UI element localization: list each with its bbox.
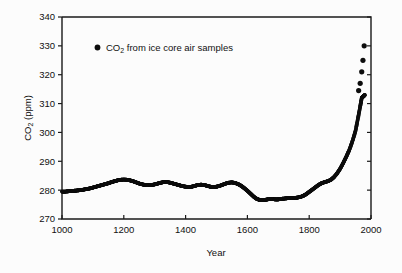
- y-tick-label: 290: [39, 156, 55, 167]
- x-tick-label: 1200: [113, 224, 134, 235]
- chart-figure: 270280290300310320330340 100012001400160…: [0, 0, 402, 273]
- y-tick-label: 270: [39, 213, 55, 224]
- y-axis-title: CO2 (ppm): [22, 95, 34, 141]
- co2-ice-core-scatter-chart: 270280290300310320330340 100012001400160…: [0, 0, 402, 273]
- y-tick-label: 340: [39, 11, 55, 22]
- y-tick-label: 330: [39, 40, 55, 51]
- y-axis-title-post: (ppm): [22, 95, 33, 122]
- data-point-recent: [356, 88, 361, 93]
- data-point-recent: [358, 81, 363, 86]
- x-axis-title: Year: [206, 247, 225, 258]
- y-tick-label: 280: [39, 185, 55, 196]
- x-tick-label: 1000: [51, 224, 72, 235]
- y-axis-title-pre: CO: [22, 127, 33, 141]
- legend-label: CO2 from ice core air samples: [106, 42, 233, 54]
- x-tick-label: 1400: [175, 224, 196, 235]
- x-tick-label: 1800: [299, 224, 320, 235]
- data-point-recent: [360, 58, 365, 63]
- y-tick-label: 300: [39, 127, 55, 138]
- data-point-recent: [362, 43, 367, 48]
- x-tick-label: 1600: [237, 224, 258, 235]
- legend: CO2 from ice core air samples: [95, 42, 234, 54]
- y-tick-label: 320: [39, 69, 55, 80]
- legend-label-post: from ice core air samples: [124, 42, 233, 53]
- legend-marker-icon: [95, 45, 101, 51]
- y-tick-label: 310: [39, 98, 55, 109]
- data-point-recent: [359, 69, 364, 74]
- data-point: [363, 93, 367, 97]
- x-tick-label: 2000: [360, 224, 381, 235]
- legend-label-pre: CO: [106, 42, 120, 53]
